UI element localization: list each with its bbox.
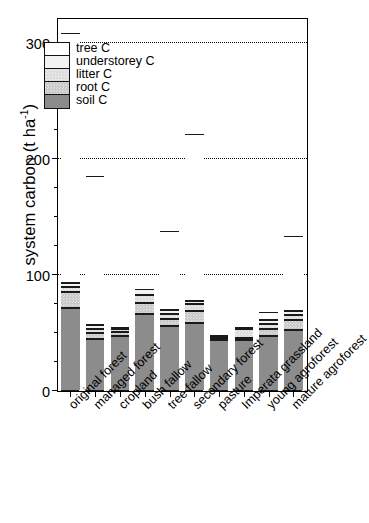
bar-segment-root [259, 329, 278, 336]
bar-segment-tree [86, 176, 105, 325]
bar-segment-tree [284, 236, 303, 311]
bar-segment-understorey [135, 289, 154, 295]
legend-swatch-root [45, 82, 69, 95]
y-tick-label-100: 100 [10, 268, 50, 284]
legend: tree Cunderstorey Clitter Croot Csoil C [44, 42, 155, 109]
bar-segment-litter [284, 315, 303, 321]
bar-secondary-forest[interactable] [185, 135, 203, 391]
y-tick-0 [52, 390, 58, 391]
legend-swatches [44, 42, 70, 109]
bar-segment-root [86, 333, 105, 339]
y-tick-200 [52, 158, 58, 159]
y-tick-label-200: 200 [10, 152, 50, 168]
y-minor-tick-75 [54, 303, 58, 304]
bar-segment-litter [111, 329, 130, 332]
y-axis-title-main: system carbon (t ha [20, 119, 38, 266]
bar-segment-root [135, 303, 154, 313]
bar-segment-understorey [210, 335, 229, 337]
bar-segment-litter [235, 329, 254, 338]
y-axis-title-close: ) [20, 104, 38, 110]
bar-segment-litter [135, 295, 154, 303]
y-minor-tick-125 [54, 245, 58, 246]
bar-segment-litter [86, 329, 105, 334]
bar-segment-tree [160, 231, 179, 310]
bar-segment-understorey [111, 327, 130, 329]
y-tick-100 [52, 274, 58, 275]
bar-segment-understorey [235, 327, 254, 329]
bar-segment-soil [61, 308, 80, 390]
legend-swatch-litter [45, 69, 69, 82]
y-axis-title-exponent: -1 [19, 110, 30, 119]
bar-segment-tree [259, 312, 278, 320]
legend-swatch-tree [45, 43, 69, 56]
bar-segment-root [284, 320, 303, 329]
bar-segment-root [61, 292, 80, 308]
legend-swatch-understorey [45, 56, 69, 69]
legend-labels: tree Cunderstorey Clitter Croot Csoil C [76, 42, 155, 109]
y-minor-tick-25 [54, 361, 58, 362]
y-minor-tick-50 [54, 332, 58, 333]
y-minor-tick-175 [54, 187, 58, 188]
bar-segment-litter [185, 304, 204, 311]
bar-segment-understorey [259, 320, 278, 323]
legend-label-soil: soil C [76, 94, 155, 107]
y-minor-tick-225 [54, 129, 58, 130]
bar-segment-root [210, 338, 229, 340]
bar-segment-root [160, 319, 179, 326]
bar-segment-root [111, 332, 130, 335]
gridline-200 [58, 158, 307, 159]
bar-segment-root [185, 311, 204, 323]
bar-segment-understorey [61, 283, 80, 286]
x-axis-tick-labels: original forestmanaged forestcroplandbus… [0, 396, 326, 523]
y-axis-title: system carbon (t ha-1) [19, 70, 39, 300]
legend-swatch-soil [45, 95, 69, 108]
bar-segment-litter [61, 287, 80, 292]
bar-segment-understorey [86, 325, 105, 328]
bar-segment-understorey [185, 301, 204, 304]
bar-segment-understorey [284, 311, 303, 314]
bar-segment-tree [185, 134, 204, 301]
y-minor-tick-150 [54, 216, 58, 217]
bar-segment-litter [259, 324, 278, 329]
bar-managed-forest[interactable] [86, 177, 104, 391]
bar-segment-litter [160, 314, 179, 320]
bar-segment-understorey [160, 310, 179, 313]
